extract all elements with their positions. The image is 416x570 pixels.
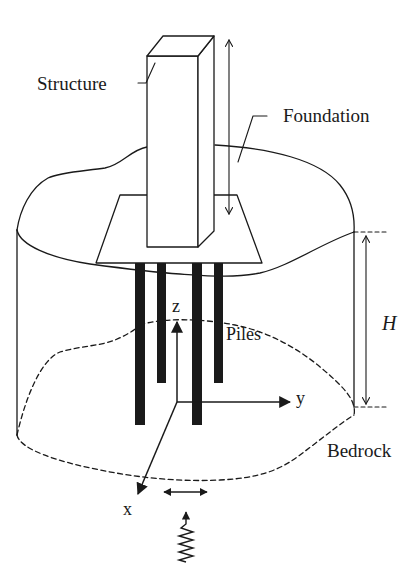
pile-4 <box>214 263 223 383</box>
diagram-canvas: Structure Foundation Piles H Bedrock x y… <box>0 0 416 570</box>
piles <box>135 263 223 425</box>
structure-box <box>147 36 214 247</box>
pile-1 <box>135 263 145 425</box>
label-structure: Structure <box>37 74 107 93</box>
foundation-leader <box>238 116 267 162</box>
seismic-wave-icon <box>179 512 193 562</box>
label-axis-z: z <box>172 297 180 315</box>
label-piles: Piles <box>226 325 261 343</box>
pile-3 <box>192 263 202 425</box>
label-axis-y: y <box>296 389 305 407</box>
label-axis-x: x <box>123 500 132 518</box>
label-height: H <box>382 313 396 333</box>
pile-2 <box>157 263 166 383</box>
label-bedrock: Bedrock <box>327 441 391 460</box>
label-foundation: Foundation <box>283 106 370 125</box>
